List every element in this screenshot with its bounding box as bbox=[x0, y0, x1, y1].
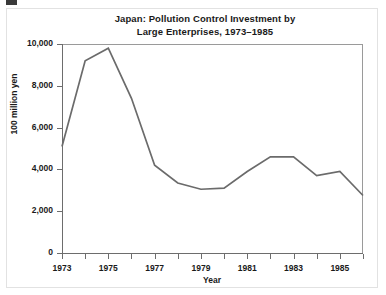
y-tick-label: 2,000 bbox=[32, 205, 53, 215]
chart-title-line-2: Large Enterprises, 1973–1985 bbox=[40, 25, 370, 38]
chart-title: Japan: Pollution Control Investment by L… bbox=[40, 12, 370, 38]
x-tick-mark-1978 bbox=[178, 254, 179, 259]
y-axis-title: 100 million yen bbox=[9, 74, 19, 135]
y-tick-label: 8,000 bbox=[32, 80, 53, 90]
x-tick-mark-1981 bbox=[247, 254, 248, 259]
x-tick-mark-1980 bbox=[224, 254, 225, 259]
y-tick-label: 10,000 bbox=[27, 38, 53, 48]
x-tick-label-1973: 1973 bbox=[53, 263, 72, 273]
x-tick-mark-1986 bbox=[363, 254, 364, 259]
page-artifact-mark bbox=[6, 0, 17, 5]
x-tick-label-1979: 1979 bbox=[191, 263, 210, 273]
x-axis-title: Year bbox=[203, 275, 221, 285]
x-tick-mark-1979 bbox=[201, 254, 202, 259]
chart-figure: Japan: Pollution Control Investment by L… bbox=[0, 0, 386, 295]
plot-area: 02,0004,0006,0008,00010,000 197319751977… bbox=[62, 44, 363, 253]
x-tick-label-1981: 1981 bbox=[238, 263, 257, 273]
x-tick-mark-1976 bbox=[131, 254, 132, 259]
x-tick-label-1975: 1975 bbox=[99, 263, 118, 273]
data-series-line bbox=[62, 48, 363, 195]
y-tick-label: 0 bbox=[48, 247, 53, 257]
x-tick-mark-1983 bbox=[294, 254, 295, 259]
x-tick-label-1977: 1977 bbox=[145, 263, 164, 273]
data-line-svg bbox=[62, 44, 363, 254]
x-tick-mark-1974 bbox=[85, 254, 86, 259]
x-tick-label-1983: 1983 bbox=[284, 263, 303, 273]
x-tick-mark-1975 bbox=[108, 254, 109, 259]
chart-title-line-1: Japan: Pollution Control Investment by bbox=[40, 12, 370, 25]
x-tick-mark-1982 bbox=[270, 254, 271, 259]
x-tick-mark-1985 bbox=[340, 254, 341, 259]
x-tick-mark-1977 bbox=[155, 254, 156, 259]
x-tick-mark-1984 bbox=[317, 254, 318, 259]
x-tick-label-1985: 1985 bbox=[330, 263, 349, 273]
y-tick-label: 4,000 bbox=[32, 163, 53, 173]
y-tick-label: 6,000 bbox=[32, 122, 53, 132]
x-tick-mark-1973 bbox=[62, 254, 63, 259]
